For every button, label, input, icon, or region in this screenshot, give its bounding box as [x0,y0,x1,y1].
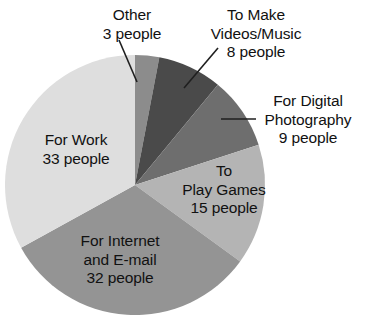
slice-label-play-games: To Play Games 15 people [172,162,276,218]
slice-label-play-games-line3: 15 people [172,199,276,218]
slice-label-digital-photography: For Digital Photography 9 people [248,92,368,148]
slice-label-for-work-line2: 33 people [20,150,132,169]
slice-label-play-games-line2: Play Games [172,181,276,200]
slice-label-videos-music-line3: 8 people [186,43,326,62]
slice-label-internet-email-line2: and E-mail [52,251,188,270]
slice-label-digital-photography-line2: Photography [248,111,368,130]
slice-label-internet-email: For Internet and E-mail 32 people [52,232,188,288]
slice-label-digital-photography-line1: For Digital [248,92,368,111]
slice-label-videos-music-line2: Videos/Music [186,25,326,44]
slice-label-play-games-line1: To [172,162,276,181]
slice-label-internet-email-line1: For Internet [52,232,188,251]
slice-label-for-work: For Work 33 people [20,131,132,168]
slice-label-internet-email-line3: 32 people [52,269,188,288]
slice-label-other-line1: Other [84,6,180,25]
slice-label-videos-music-line1: To Make [186,6,326,25]
slice-label-other: Other 3 people [84,6,180,43]
slice-label-other-line2: 3 people [84,25,180,44]
slice-label-for-work-line1: For Work [20,131,132,150]
slice-label-digital-photography-line3: 9 people [248,129,368,148]
slice-label-videos-music: To Make Videos/Music 8 people [186,6,326,62]
pie-chart: Other 3 people To Make Videos/Music 8 pe… [0,0,368,325]
